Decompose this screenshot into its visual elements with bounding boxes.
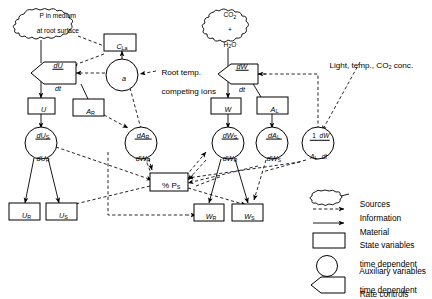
info-right-to-pctPS-a [188, 162, 300, 178]
circle-dAldWs-label: dAL dWS [262, 109, 282, 178]
box-AR-label: AR [82, 99, 95, 115]
source-cloud-p-label: P in medium at root surface [33, 5, 79, 35]
box-WR-label: WR [202, 204, 217, 220]
circle-dUsdUr-label: dUS dUR [31, 109, 50, 178]
flow-AR-up [81, 84, 88, 99]
box-CLa-label: CLa [112, 34, 127, 50]
legend-circle-icon [317, 256, 338, 277]
legend-rectangle-icon [313, 233, 345, 248]
rate-dUdt-label: dU dt [48, 39, 63, 108]
circle-dArdWr-label: dAR dWR [131, 109, 152, 178]
legend-cloud-icon [310, 190, 342, 206]
diagram-canvas: P in medium at root surface CO2 + H2O Ro… [0, 0, 432, 299]
rate-dWdt-label: dW dt [232, 40, 249, 109]
info-pctPS-to-dWsdWr [186, 152, 206, 176]
info-AR-to-dArdWr [104, 115, 128, 128]
box-US-label: US [55, 203, 68, 219]
circle-a-label: a [118, 67, 126, 83]
info-CLa-to-dudt [72, 54, 104, 66]
box-UR-label: UR [18, 203, 31, 219]
legend-cloud-tail [341, 194, 349, 196]
co2-text: CO2 [223, 11, 236, 18]
box-pctPS-label: % PS [158, 173, 181, 191]
info-roottemp-to-a [140, 71, 156, 74]
box-WS-label: WS [240, 204, 254, 220]
info-pctPS-to-WS [188, 188, 246, 205]
info-pctPS-to-US [67, 186, 150, 206]
legend-rate-label: Rate controls [355, 280, 409, 299]
circle-dWsdWr-label: dWS dWR [218, 109, 239, 178]
info-pcloud-to-CLa [78, 36, 104, 46]
circle-onAldWdt-label: 1 AL dW dt [306, 113, 330, 173]
info-dWsdWr-cross-WR [196, 176, 222, 186]
annotation-root-temp: Root temp. competing ions [157, 58, 216, 97]
legend-rate-pentagon-icon [311, 277, 345, 293]
annotation-light-temp-co2: Light, temp., CO₂ conc. [325, 51, 413, 70]
